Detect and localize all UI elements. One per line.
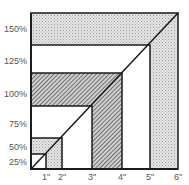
y-label-150: 150% (4, 24, 27, 34)
y-label-125: 125% (4, 56, 27, 66)
x-label-2in: 2" (58, 172, 66, 182)
x-label-5in: 5" (146, 172, 154, 182)
x-label-4in: 4" (118, 172, 126, 182)
x-label-3in: 3" (88, 172, 96, 182)
y-label-100: 100% (4, 89, 27, 99)
y-label-50: 50% (9, 142, 27, 152)
nested-squares-diagram (0, 0, 189, 185)
y-label-75: 75% (9, 119, 27, 129)
x-label-1in: 1" (42, 172, 50, 182)
y-label-25: 25% (9, 157, 27, 167)
x-label-6in: 6" (174, 172, 182, 182)
